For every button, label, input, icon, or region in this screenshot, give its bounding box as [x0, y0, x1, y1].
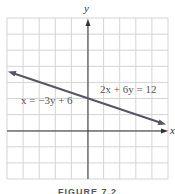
y-axis-arrow-icon [86, 19, 91, 26]
line-arrow-right-icon [158, 120, 167, 126]
x-axis-arrow-icon [161, 129, 168, 134]
y-axis-label: y [84, 3, 89, 14]
x-axis-label: x [170, 125, 175, 136]
figure-caption: FIGURE 7.2 [0, 187, 175, 194]
line-arrow-left-icon [8, 71, 17, 77]
equation-label-solved: x = −3y + 6 [21, 95, 73, 106]
equation-label-standard: 2x + 6y = 12 [100, 84, 156, 95]
